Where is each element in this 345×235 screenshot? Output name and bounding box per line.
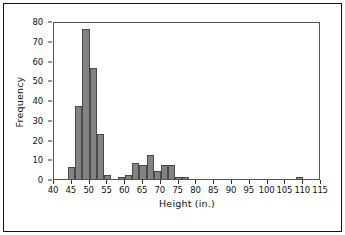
y-tick-label: 10 [33, 155, 43, 165]
x-tick-label: 75 [172, 185, 182, 195]
x-tick-mark [142, 180, 143, 184]
histogram-bar [68, 167, 75, 179]
x-tick-mark [106, 180, 107, 184]
x-tick-label: 90 [226, 185, 236, 195]
x-tick-mark [320, 180, 321, 184]
y-tick-label: 50 [33, 76, 43, 86]
histogram-bar [118, 177, 125, 179]
y-tick-mark [48, 160, 52, 161]
x-tick-mark [249, 180, 250, 184]
x-tick-mark [89, 180, 90, 184]
y-axis-title: Frequency [14, 57, 25, 147]
y-tick-mark [48, 180, 52, 181]
histogram-bar [82, 29, 89, 179]
x-tick-mark [213, 180, 214, 184]
y-tick-mark [48, 61, 52, 62]
x-tick-label: 70 [155, 185, 165, 195]
x-tick-mark [124, 180, 125, 184]
x-tick-label: 95 [244, 185, 254, 195]
histogram-bar [104, 175, 111, 179]
y-tick-mark [48, 22, 52, 23]
x-tick-label: 50 [83, 185, 93, 195]
y-tick-label: 0 [38, 175, 43, 185]
histogram-bar [296, 177, 303, 179]
x-tick-label: 65 [137, 185, 147, 195]
plot-area [53, 22, 320, 180]
histogram-bar [90, 68, 97, 179]
histogram-bar [175, 177, 182, 179]
x-tick-mark [302, 180, 303, 184]
histogram-bar [132, 163, 139, 179]
x-tick-mark [178, 180, 179, 184]
x-tick-mark [71, 180, 72, 184]
x-tick-label: 60 [119, 185, 129, 195]
histogram-bar [147, 155, 154, 179]
y-tick-label: 60 [33, 57, 43, 67]
x-tick-mark [267, 180, 268, 184]
x-tick-label: 100 [259, 185, 275, 195]
histogram-bar [125, 175, 132, 179]
x-tick-mark [231, 180, 232, 184]
y-tick-mark [48, 81, 52, 82]
histogram-bar [168, 165, 175, 179]
y-tick-mark [48, 101, 52, 102]
x-tick-label: 55 [101, 185, 111, 195]
x-tick-mark [195, 180, 196, 184]
x-tick-label: 110 [294, 185, 310, 195]
histogram-bar [97, 134, 104, 179]
y-tick-label: 30 [33, 116, 43, 126]
bars-layer [54, 23, 319, 179]
histogram-bar [154, 171, 161, 179]
y-tick-mark [48, 120, 52, 121]
y-tick-mark [48, 140, 52, 141]
y-tick-label: 80 [33, 17, 43, 27]
x-tick-mark [160, 180, 161, 184]
x-tick-label: 115 [312, 185, 328, 195]
y-tick-label: 70 [33, 37, 43, 47]
x-tick-mark [53, 180, 54, 184]
histogram-bar [75, 106, 82, 179]
histogram-bar [139, 165, 146, 179]
y-tick-label: 40 [33, 96, 43, 106]
x-axis-title: Height (in.) [53, 198, 321, 209]
x-tick-label: 80 [190, 185, 200, 195]
histogram-figure: Frequency 01020304050607080 404550556065… [0, 0, 345, 235]
y-tick-label: 20 [33, 136, 43, 146]
x-tick-label: 45 [66, 185, 76, 195]
y-axis: Frequency 01020304050607080 [0, 22, 53, 181]
x-tick-mark [284, 180, 285, 184]
histogram-bar [182, 177, 189, 179]
x-tick-label: 40 [48, 185, 58, 195]
y-tick-mark [48, 41, 52, 42]
x-tick-label: 85 [208, 185, 218, 195]
histogram-bar [161, 165, 168, 179]
x-tick-label: 105 [277, 185, 293, 195]
